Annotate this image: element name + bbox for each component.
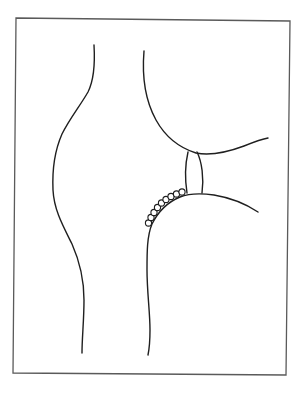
meniscus-right-edge — [197, 152, 203, 193]
upper-bone-contour — [143, 51, 268, 154]
meniscus-left-edge — [186, 152, 188, 193]
figure-frame — [13, 18, 290, 375]
joint-line-drawing — [0, 0, 304, 393]
bead-circle — [179, 189, 185, 195]
lower-bone-contour — [147, 194, 258, 355]
bead-chain — [145, 189, 185, 226]
left-contour — [53, 45, 95, 353]
